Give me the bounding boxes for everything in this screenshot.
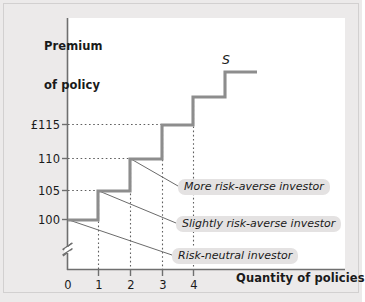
y-tick-label-115: £115 bbox=[8, 118, 60, 132]
leader-line-more-risk-averse bbox=[131, 159, 178, 186]
x-axis-title: Quantity of policies bbox=[236, 272, 365, 285]
leader-line-slightly-risk-averse bbox=[99, 191, 176, 223]
supply-curve-label: S bbox=[222, 52, 230, 67]
x-tick-label-2: 2 bbox=[121, 278, 141, 292]
x-tick-label-3: 3 bbox=[153, 278, 173, 292]
annotation-slightly-risk-averse: Slightly risk-averse investor bbox=[176, 216, 341, 232]
y-tick-label-105: 105 bbox=[8, 184, 60, 198]
annotation-risk-neutral: Risk-neutral investor bbox=[172, 248, 298, 264]
y-axis-title: Premium of policy bbox=[44, 14, 103, 118]
leader-line-risk-neutral bbox=[69, 220, 172, 255]
y-tick-label-110: 110 bbox=[8, 152, 60, 166]
y-tick-label-100: 100 bbox=[8, 213, 60, 227]
y-axis-title-line2: of policy bbox=[44, 79, 103, 92]
x-tick-label-4: 4 bbox=[184, 278, 204, 292]
annotation-more-risk-averse: More risk-averse investor bbox=[178, 179, 330, 195]
x-tick-label-1: 1 bbox=[89, 278, 109, 292]
x-tick-label-0: 0 bbox=[58, 278, 78, 292]
y-axis-title-line1: Premium bbox=[44, 40, 103, 53]
